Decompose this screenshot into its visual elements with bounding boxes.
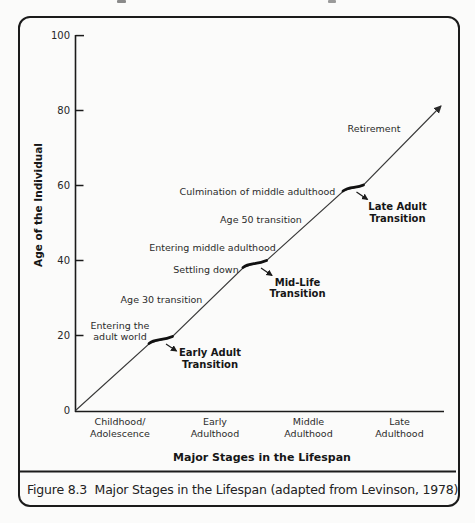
annotation-age-50-transition: Age 50 transition <box>220 214 302 226</box>
y-tick-100: 100 <box>40 30 70 42</box>
x-tick-late-adulthood: Late Adulthood <box>375 416 423 440</box>
y-tick-0: 0 <box>40 405 70 417</box>
annotation-retirement: Retirement <box>348 123 401 135</box>
mid-life-arrow <box>261 268 272 276</box>
late-adult-plateau <box>343 185 364 191</box>
x-tick-early-adulthood: Early Adulthood <box>191 416 239 440</box>
x-tick-middle-adulthood: Middle Adulthood <box>284 416 332 440</box>
x-tick-childhood: Childhood/ Adolescence <box>90 416 150 440</box>
annotation-age-30-transition: Age 30 transition <box>121 294 203 306</box>
late-adult-arrow <box>357 192 368 200</box>
annotation-entering-middle-adulthood: Entering middle adulthood <box>149 242 276 254</box>
label-early-adult-transition: Early Adult Transition <box>179 347 241 370</box>
y-tick-80: 80 <box>40 105 70 117</box>
label-late-adult-transition: Late Adult Transition <box>368 201 426 224</box>
figure-container: 100 80 60 40 20 0 Age of the Individual … <box>0 0 475 523</box>
y-axis-ticks <box>76 36 85 336</box>
plot-lines <box>0 0 475 523</box>
figure-caption: Figure 8.3 Major Stages in the Lifespan … <box>27 482 458 497</box>
y-tick-20: 20 <box>40 330 70 342</box>
early-adult-arrow <box>166 344 177 351</box>
annotation-entering-adult-world: Entering the adult world <box>91 320 150 343</box>
x-axis-title: Major Stages in the Lifespan <box>173 451 351 464</box>
mid-life-plateau <box>243 261 267 268</box>
y-tick-40: 40 <box>40 255 70 267</box>
cropped-text-fragment <box>117 0 126 3</box>
lifespan-line <box>76 106 442 411</box>
annotation-culmination-middle-adulthood: Culmination of middle adulthood <box>180 186 336 198</box>
cropped-text-fragment <box>328 0 336 3</box>
annotation-settling-down: Settling down <box>173 264 238 276</box>
y-tick-60: 60 <box>40 180 70 192</box>
label-mid-life-transition: Mid-Life Transition <box>269 277 325 300</box>
y-axis-title: Age of the Individual <box>32 143 44 267</box>
early-adult-plateau <box>149 337 173 344</box>
